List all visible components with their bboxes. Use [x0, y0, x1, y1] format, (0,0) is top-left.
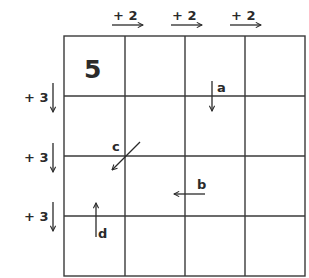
column-step-1: + 2	[112, 8, 143, 25]
number-grid-diagram: 5 + 2 + 2 + 2 + 3 + 3 + 3 a b c	[0, 0, 309, 278]
arrow-b: b	[174, 177, 206, 194]
column-step-label: + 2	[231, 8, 255, 23]
arrow-c: c	[112, 139, 140, 170]
row-step-3: + 3	[24, 202, 53, 231]
arrow-label: d	[98, 226, 107, 241]
row-step-2: + 3	[24, 143, 53, 172]
arrow-label: a	[217, 80, 226, 95]
arrow-label: c	[112, 139, 120, 154]
column-step-label: + 2	[172, 8, 196, 23]
row-step-label: + 3	[24, 209, 48, 224]
start-cell-value: 5	[84, 55, 101, 84]
row-step-label: + 3	[24, 90, 48, 105]
column-step-label: + 2	[113, 8, 137, 23]
column-step-2: + 2	[171, 8, 202, 25]
arrow-d: d	[96, 203, 107, 241]
row-step-1: + 3	[24, 83, 53, 112]
row-step-label: + 3	[24, 150, 48, 165]
arrow-label: b	[197, 177, 206, 192]
column-step-3: + 2	[230, 8, 261, 25]
